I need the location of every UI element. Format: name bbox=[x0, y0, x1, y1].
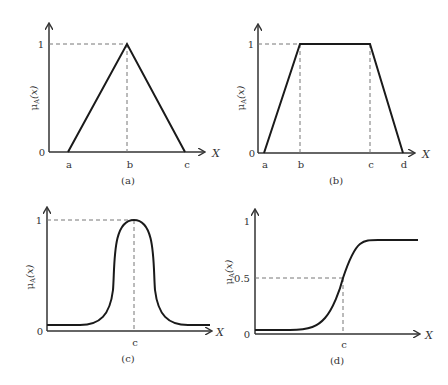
y-tick-1: 1 bbox=[38, 39, 44, 50]
panel-b-trapezoidal: 1 0 a b c d X μA(x) (b) bbox=[235, 25, 431, 186]
x-tick-b: b bbox=[127, 159, 133, 170]
y-tick-1: 1 bbox=[36, 215, 42, 226]
caption-b: (b) bbox=[329, 175, 343, 186]
caption-d: (d) bbox=[330, 355, 344, 366]
y-tick-0: 0 bbox=[37, 326, 43, 337]
svg-text:μA(x): μA(x) bbox=[28, 85, 41, 110]
y-tick-0: 0 bbox=[244, 329, 250, 340]
caption-c: (c) bbox=[121, 353, 135, 364]
y-axis-label: μA(x) bbox=[24, 264, 37, 289]
x-axis-label: X bbox=[215, 326, 225, 339]
membership-functions-figure: 1 0 a b c X μA(x) (a) 1 0 a b c d X μA(x… bbox=[0, 0, 448, 385]
panel-d-sigmoid: 1 0.5 0 c X μA(x) (d) bbox=[223, 210, 434, 366]
x-axis-label: X bbox=[424, 329, 434, 342]
x-tick-c: c bbox=[368, 159, 374, 170]
y-tick-1: 1 bbox=[244, 216, 250, 227]
y-tick-0: 0 bbox=[249, 148, 255, 159]
bell-curve bbox=[47, 220, 210, 325]
y-axis-label: μA(x) bbox=[28, 85, 41, 110]
panel-c-bell: 1 0 c X μA(x) (c) bbox=[24, 208, 225, 364]
svg-text:μA(x): μA(x) bbox=[24, 264, 37, 289]
svg-text:μA(x): μA(x) bbox=[235, 85, 248, 110]
trapezoidal-curve bbox=[264, 44, 403, 153]
sigmoid-curve bbox=[255, 240, 418, 330]
x-tick-c: c bbox=[184, 159, 190, 170]
panel-a-triangular: 1 0 a b c X μA(x) (a) bbox=[28, 24, 221, 186]
x-axis-label: X bbox=[211, 147, 221, 160]
x-tick-a: a bbox=[66, 159, 72, 170]
y-axis-label: μA(x) bbox=[235, 85, 248, 110]
y-tick-0-5: 0.5 bbox=[234, 273, 250, 284]
x-tick-d: d bbox=[401, 159, 408, 170]
x-tick-c: c bbox=[341, 339, 347, 350]
y-tick-0: 0 bbox=[39, 147, 45, 158]
x-axis-label: X bbox=[421, 148, 431, 161]
caption-a: (a) bbox=[121, 175, 135, 186]
x-tick-b: b bbox=[298, 159, 304, 170]
x-tick-a: a bbox=[262, 159, 268, 170]
y-tick-1: 1 bbox=[248, 39, 254, 50]
x-tick-c: c bbox=[132, 337, 138, 348]
